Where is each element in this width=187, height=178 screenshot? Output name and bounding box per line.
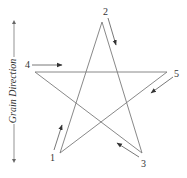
vertex-label-3: 3 bbox=[141, 158, 146, 169]
grain-direction-indicator: Grain Direction bbox=[7, 22, 18, 161]
pentagram-star bbox=[35, 22, 167, 153]
vertex-label-4: 4 bbox=[25, 59, 30, 70]
vertex-labels: 12345 bbox=[25, 6, 179, 169]
arrow-5-icon bbox=[151, 77, 173, 93]
arrow-1-icon bbox=[54, 125, 62, 150]
grain-direction-label: Grain Direction bbox=[7, 59, 18, 123]
pentagram-grain-diagram: Grain Direction 12345 bbox=[0, 0, 187, 178]
vertex-label-2: 2 bbox=[103, 6, 108, 17]
arrow-3-icon bbox=[117, 143, 139, 157]
arrow-2-icon bbox=[108, 18, 116, 45]
vertex-label-5: 5 bbox=[174, 68, 179, 79]
stroke-direction-arrows bbox=[32, 18, 173, 157]
vertex-label-1: 1 bbox=[50, 152, 55, 163]
